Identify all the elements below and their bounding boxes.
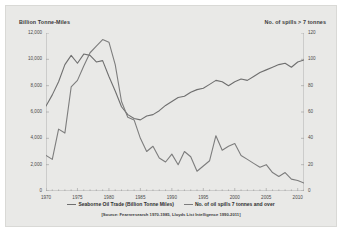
legend-label: No. of oil spills 7 tonnes and over — [195, 201, 275, 207]
left-tick-label: 10,000 — [6, 56, 42, 61]
right-tick-label: 80 — [308, 83, 313, 88]
left-axis-title: Billion Tonne-Miles — [19, 19, 70, 25]
x-tick-label: 2000 — [220, 195, 250, 200]
left-tick-label: 4,000 — [6, 135, 42, 140]
right-axis-title: No. of spills > 7 tonnes — [265, 19, 326, 25]
legend-swatch-icon — [184, 204, 193, 205]
x-tick-label: 1990 — [157, 195, 187, 200]
plot-area — [46, 33, 304, 191]
x-tick-label: 1980 — [94, 195, 124, 200]
chart-legend: Seaborne Oil Trade (Billion Tonne Miles)… — [6, 201, 336, 207]
right-tick-label: 60 — [308, 109, 313, 114]
x-tick-label: 1970 — [31, 195, 61, 200]
x-tick-label: 1995 — [188, 195, 218, 200]
legend-swatch-icon — [67, 204, 76, 205]
right-tick-label: 100 — [308, 56, 316, 61]
right-tick-label: 0 — [308, 188, 311, 193]
legend-item-2: No. of oil spills 7 tonnes and over — [184, 201, 275, 207]
x-tick-label: 2005 — [251, 195, 281, 200]
legend-item-1: Seaborne Oil Trade (Billion Tonne Miles) — [67, 201, 173, 207]
chart-figure: Billion Tonne-Miles No. of spills > 7 to… — [0, 0, 342, 235]
right-tick-label: 40 — [308, 135, 313, 140]
x-tick-label: 1985 — [125, 195, 155, 200]
left-tick-label: 8,000 — [6, 83, 42, 88]
x-tick-label: 1975 — [62, 195, 92, 200]
x-tick-label: 2010 — [283, 195, 313, 200]
source-note: [Source: Fearnresearch 1970-1985, Lloyds… — [6, 212, 336, 217]
right-tick-label: 120 — [308, 30, 316, 35]
legend-label: Seaborne Oil Trade (Billion Tonne Miles) — [78, 201, 173, 207]
right-tick-label: 20 — [308, 162, 313, 167]
left-tick-label: 0 — [6, 188, 42, 193]
plot-lines — [46, 33, 304, 191]
left-tick-label: 6,000 — [6, 109, 42, 114]
series-line-2 — [46, 40, 304, 184]
chart-panel: Billion Tonne-Miles No. of spills > 7 to… — [5, 5, 337, 227]
left-tick-label: 2,000 — [6, 162, 42, 167]
left-tick-label: 12,000 — [6, 30, 42, 35]
